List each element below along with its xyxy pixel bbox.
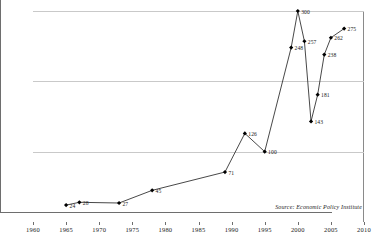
- point-label-1995: 100: [268, 149, 277, 155]
- x-tick-label-2005: 2005: [324, 226, 338, 233]
- x-tick-mark-1980: [165, 222, 166, 225]
- point-label-2002: 143: [314, 119, 323, 125]
- data-point-2004: [322, 53, 326, 57]
- data-point-1999: [289, 45, 293, 49]
- point-label-1967: 28: [83, 200, 89, 206]
- data-point-2002: [309, 119, 313, 123]
- x-tick-label-1975: 1975: [125, 226, 139, 233]
- x-tick-label-1960: 1960: [26, 226, 40, 233]
- data-point-1973: [117, 201, 121, 205]
- point-label-2001: 257: [308, 39, 317, 45]
- point-label-1965: 24: [70, 203, 76, 209]
- x-tick-mark-1990: [232, 222, 233, 225]
- x-axis-tick-labels: 1960196519701975198019851990199520002005…: [0, 226, 382, 242]
- point-label-1973: 27: [122, 201, 128, 207]
- point-label-1999: 248: [295, 45, 304, 51]
- x-tick-label-1995: 1995: [258, 226, 272, 233]
- plot-area: 2428274571126100248300257143181238262275: [33, 11, 364, 222]
- point-label-2000: 300: [301, 9, 310, 15]
- data-point-1965: [64, 203, 68, 207]
- series-polyline: [66, 11, 344, 205]
- point-label-2005: 262: [334, 35, 343, 41]
- x-tick-mark-2010: [364, 222, 365, 225]
- data-point-1967: [77, 200, 81, 204]
- x-tick-mark-1995: [265, 222, 266, 225]
- data-point-2001: [302, 39, 306, 43]
- x-tick-mark-2005: [331, 222, 332, 225]
- x-tick-label-1990: 1990: [225, 226, 239, 233]
- point-label-2007: 275: [348, 26, 357, 32]
- x-tick-mark-2000: [298, 222, 299, 225]
- chart-container: 2428274571126100248300257143181238262275…: [0, 0, 382, 250]
- y-axis-line: 0100200300: [0, 0, 1, 212]
- point-label-1989: 71: [228, 170, 234, 176]
- x-tick-mark-1985: [199, 222, 200, 225]
- x-tick-label-2000: 2000: [291, 226, 305, 233]
- x-tick-label-2010: 2010: [357, 226, 371, 233]
- point-label-1978: 45: [156, 188, 162, 194]
- x-tick-label-1965: 1965: [59, 226, 73, 233]
- data-point-2003: [316, 93, 320, 97]
- data-point-1978: [150, 188, 154, 192]
- point-label-1992: 126: [248, 131, 257, 137]
- x-tick-label-1985: 1985: [192, 226, 206, 233]
- x-tick-mark-1975: [132, 222, 133, 225]
- x-tick-mark-1965: [66, 222, 67, 225]
- data-point-2000: [296, 9, 300, 13]
- point-label-2003: 181: [321, 92, 330, 98]
- point-label-2004: 238: [328, 52, 337, 58]
- x-tick-mark-1960: [33, 222, 34, 225]
- data-point-1989: [223, 170, 227, 174]
- x-tick-label-1970: 1970: [92, 226, 106, 233]
- x-tick-label-1980: 1980: [158, 226, 172, 233]
- source-note: Source: Economic Policy Institute: [275, 204, 362, 210]
- x-tick-mark-1970: [99, 222, 100, 225]
